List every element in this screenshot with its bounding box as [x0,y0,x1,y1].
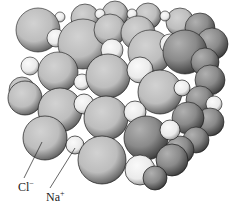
chloride-charge: − [29,179,34,188]
sodium-symbol: Na [46,190,60,204]
sodium-label: Na+ [46,190,65,203]
sodium-charge: + [60,189,65,198]
chloride-symbol: Cl [18,180,29,194]
nacl-lattice-diagram [0,0,235,209]
front-layer [8,54,190,190]
chloride-label: Cl− [18,180,34,193]
